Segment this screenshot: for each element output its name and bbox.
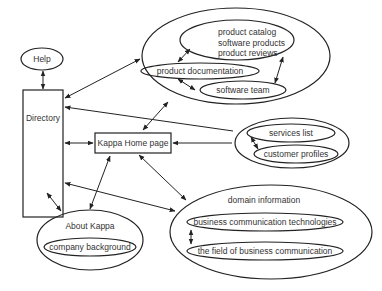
domain-group-node: domain information business communicatio…: [170, 185, 372, 279]
product-catalog-label: product catalog: [218, 27, 276, 37]
about-label: About Kappa: [65, 221, 114, 231]
directory-node: Directory: [23, 90, 63, 217]
product-reviews-label: product reviews: [218, 48, 278, 58]
product-group-node: product catalog software products produc…: [141, 8, 330, 104]
directory-label: Directory: [26, 113, 61, 123]
services-group-node: services list customer profiles: [235, 118, 349, 168]
help-node: Help: [21, 48, 63, 70]
site-map-diagram: Help Directory Kappa Home page product c…: [0, 0, 382, 291]
home-node: Kappa Home page: [95, 133, 171, 153]
services-list-label: services list: [269, 128, 314, 138]
customer-profiles-label: customer profiles: [264, 149, 329, 159]
domain-information-label: domain information: [228, 195, 301, 205]
product-documentation-label: product documentation: [157, 66, 244, 76]
company-background-label: company background: [49, 242, 131, 252]
help-label: Help: [33, 54, 51, 64]
business-comm-tech-label: business communication technologies: [193, 217, 336, 227]
about-node: About Kappa company background: [37, 210, 143, 270]
home-label: Kappa Home page: [98, 138, 169, 148]
software-products-text: software products: [218, 38, 285, 48]
field-business-comm-label: the field of business communication: [198, 246, 333, 256]
software-team-label: software team: [216, 85, 269, 95]
